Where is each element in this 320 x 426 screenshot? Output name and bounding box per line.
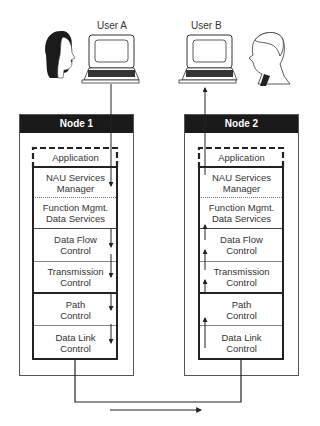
node-2-layer-data-link-control: Data Link Control [199, 326, 284, 360]
layer-label-line2: Manager [57, 183, 95, 194]
node-2-layer-data-flow-control: Data Flow Control [199, 229, 284, 262]
node-2-layer-nau-services-manager: NAU Services Manager [199, 168, 284, 198]
node-1-layer-data-flow-control: Data Flow Control [33, 229, 118, 262]
node-1-layer-stack: Application NAU Services Manager Functio… [33, 148, 118, 360]
layer-label-line1: Transmission [47, 266, 103, 277]
layer-label-line1: Data Flow [54, 234, 97, 245]
layer-label-line2: Control [226, 343, 257, 354]
node-1-header: Node 1 [20, 115, 133, 133]
node-1-layer-application: Application [33, 148, 118, 168]
layer-label-line2: Control [226, 277, 257, 288]
node-1-layer-function-mgmt-data-services: Function Mgmt. Data Services [33, 198, 118, 229]
node-2-layer-application: Application [199, 148, 284, 168]
layer-label: Application [52, 152, 98, 163]
layer-label-line1: NAU Services [46, 172, 105, 183]
layer-label: Application [218, 152, 264, 163]
node-2-layer-function-mgmt-data-services: Function Mgmt. Data Services [199, 198, 284, 229]
layer-label-line2: Control [226, 245, 257, 256]
layer-label-line2: Control [60, 245, 91, 256]
user-b-label: User B [191, 20, 222, 31]
node-1-layer-nau-services-manager: NAU Services Manager [33, 168, 118, 198]
layer-label-line1: Data Link [55, 332, 95, 343]
node-1-layer-data-link-control: Data Link Control [33, 326, 118, 360]
node-2-header: Node 2 [185, 115, 298, 133]
layer-label-line1: Transmission [213, 266, 269, 277]
user-a-label: User A [97, 20, 127, 31]
layer-label-line2: Manager [223, 183, 261, 194]
layer-label-line1: Function Mgmt. [43, 202, 108, 213]
node-1-layer-path-control: Path Control [33, 294, 118, 326]
node-2-layer-transmission-control: Transmission Control [199, 262, 284, 294]
layer-label-line2: Control [60, 343, 91, 354]
layer-label-line2: Control [60, 310, 91, 321]
layer-label-line1: Data Link [221, 332, 261, 343]
layer-label-line2: Data Services [46, 213, 105, 224]
layer-label-line1: Path [232, 299, 252, 310]
layer-label-line1: NAU Services [212, 172, 271, 183]
layer-label-line2: Control [226, 310, 257, 321]
layer-label-line1: Function Mgmt. [209, 202, 274, 213]
layer-label-line1: Path [66, 299, 86, 310]
node-1-layer-transmission-control: Transmission Control [33, 262, 118, 294]
node-2-layer-path-control: Path Control [199, 294, 284, 326]
node-2-layer-stack: Application NAU Services Manager Functio… [199, 148, 284, 360]
layer-label-line2: Control [60, 277, 91, 288]
layer-label-line1: Data Flow [220, 234, 263, 245]
layer-label-line2: Data Services [212, 213, 271, 224]
